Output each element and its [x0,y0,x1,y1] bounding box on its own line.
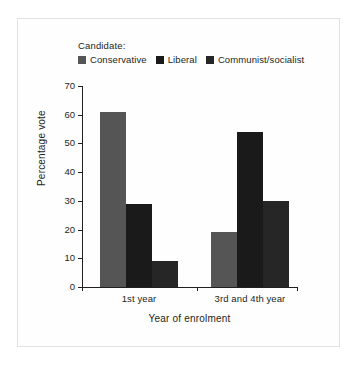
y-tick-label: 30 [64,196,75,206]
chart-figure: Candidate: ConservativeLiberalCommunist/… [0,0,358,366]
bar [152,261,178,287]
bar [100,112,126,287]
x-tick-mark [297,287,298,291]
x-axis-label: Year of enrolment [82,313,297,324]
y-axis-line [82,86,83,287]
y-tick-label: 10 [64,254,75,264]
x-axis-line [82,287,297,288]
chart-legend: Candidate: ConservativeLiberalCommunist/… [78,40,338,65]
legend-swatch [78,56,86,64]
x-tick-mark [197,287,198,291]
y-tick-mark [78,201,82,202]
y-tick-label: 0 [70,282,75,292]
y-tick-mark [78,115,82,116]
bar [237,132,263,287]
bar [126,204,152,287]
legend-swatch [156,56,164,64]
legend-entry: Communist/socialist [206,55,304,65]
legend-label: Liberal [168,55,197,65]
legend-entry: Liberal [156,55,197,65]
legend-swatch [206,56,214,64]
x-tick-mark [82,287,83,291]
legend-title: Candidate: [78,40,338,51]
y-tick-label: 20 [64,225,75,235]
y-axis-label: Percentage vote [36,110,47,186]
y-tick-mark [78,258,82,259]
y-tick-label: 70 [64,81,75,91]
bar [263,201,289,287]
bar [211,232,237,287]
y-tick-mark [78,143,82,144]
legend-items: ConservativeLiberalCommunist/socialist [78,55,338,65]
y-tick-label: 60 [64,110,75,120]
x-tick-label: 3rd and 4th year [215,293,286,304]
y-tick-mark [78,172,82,173]
y-tick-mark [78,86,82,87]
plot-area: 010203040506070 1st year3rd and 4th year [82,86,297,287]
y-tick-label: 40 [64,167,75,177]
legend-label: Communist/socialist [218,55,304,65]
x-tick-label: 1st year [122,293,157,304]
legend-entry: Conservative [78,55,147,65]
y-tick-label: 50 [64,139,75,149]
legend-label: Conservative [90,55,147,65]
y-tick-mark [78,230,82,231]
